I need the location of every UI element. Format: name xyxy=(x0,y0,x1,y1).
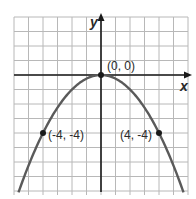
data-point xyxy=(156,130,162,136)
data-point xyxy=(40,130,46,136)
y-axis-label: y xyxy=(89,14,99,30)
axes xyxy=(14,13,192,192)
right-point-label: (4, -4) xyxy=(120,128,152,142)
data-point xyxy=(98,72,104,78)
parabola-graph: y x (0, 0) (-4, -4) (4, -4) xyxy=(0,0,196,199)
x-axis-label: x xyxy=(179,78,189,94)
vertex-label: (0, 0) xyxy=(107,59,135,73)
left-point-label: (-4, -4) xyxy=(48,128,84,142)
